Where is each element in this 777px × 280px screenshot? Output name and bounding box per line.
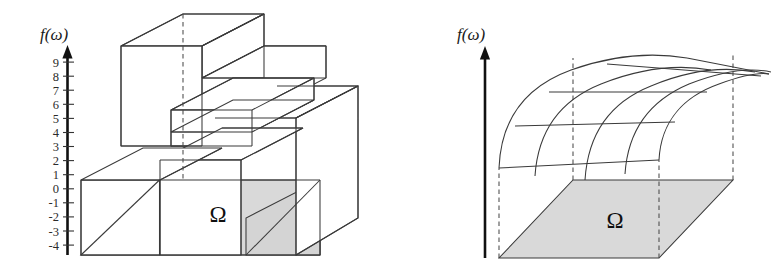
tick-label: 6 — [53, 98, 59, 112]
tick-label: 3 — [53, 140, 59, 154]
tick-label: 0 — [53, 182, 59, 196]
right-axis-label: f(ω) — [457, 25, 485, 44]
tick-label: 1 — [53, 168, 59, 182]
tick-label: -4 — [49, 239, 60, 253]
left-figure-svg: f(ω) — [0, 0, 389, 280]
tick-label: 2 — [53, 154, 59, 168]
tick-label: 5 — [53, 112, 59, 126]
right-domain-label-omega: Ω — [606, 208, 623, 233]
tick-label: 4 — [53, 126, 60, 140]
tick-label: -3 — [49, 225, 59, 239]
right-smooth-surface-mesh — [499, 55, 771, 180]
panel-left-simple-function: f(ω) — [0, 0, 389, 280]
tick-label: 8 — [53, 70, 59, 84]
tick-label: -2 — [49, 210, 59, 224]
panel-right-smooth-function: f(ω) — [389, 0, 777, 280]
right-vertical-axis — [480, 46, 490, 258]
right-axis-arrowhead — [480, 46, 490, 60]
tick-label: 9 — [53, 56, 59, 70]
tick-label: 7 — [53, 84, 59, 98]
left-axis-tick-labels: 9 8 7 6 5 4 3 2 1 0 -1 -2 -3 -4 — [49, 56, 60, 253]
tick-label: -1 — [49, 196, 59, 210]
left-axis-arrowhead — [62, 45, 72, 59]
left-domain-label-omega: Ω — [209, 202, 226, 227]
figure-root: f(ω) — [0, 0, 777, 280]
left-axis-label: f(ω) — [40, 25, 68, 44]
right-figure-svg: f(ω) — [389, 0, 777, 280]
